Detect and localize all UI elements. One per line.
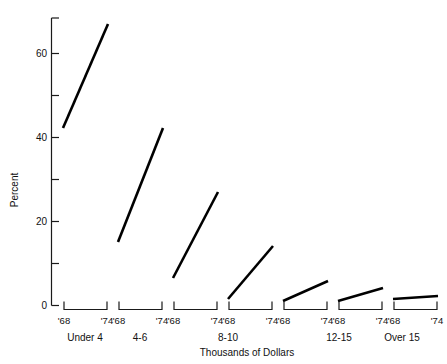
series-line-3 [173,192,218,278]
y-axis-title: Percent [9,173,20,208]
group-12-15: '68 '74 12-15 [326,288,388,343]
group-8-10: '68 '74 8-10 [218,246,278,343]
group-4-6: '68 '74 4-6 [113,128,168,343]
x-axis-title: Thousands of Dollars [200,347,295,358]
year-label-4-start: '68 [223,315,235,326]
year-label-3-start: '68 [168,315,180,326]
y-axis-tick-labels: 0 20 40 60 [36,48,48,311]
group-label-12-15: 12-15 [326,332,352,343]
group-bracket-4 [229,302,272,310]
series-line-5 [283,281,328,301]
group-5: '68 '74 [278,281,333,326]
y-tick-label-60: 60 [36,48,48,59]
series-line-8-10 [228,246,273,299]
y-axis-ticks [52,54,60,306]
group-label-8-10: 8-10 [218,332,238,343]
group-bracket-7 [394,302,437,310]
group-bracket-1 [64,302,107,310]
y-tick-label-0: 0 [41,300,47,311]
series-line-12-15 [338,288,383,301]
year-label-4-end: '74 [266,315,278,326]
year-label-7-start: '68 [388,315,400,326]
year-label-5-start: '68 [278,315,290,326]
y-tick-label-20: 20 [36,216,48,227]
group-bracket-5 [284,302,327,310]
year-label-6-start: '68 [333,315,345,326]
group-label-4-6: 4-6 [133,332,148,343]
year-label-1-end: '74 [101,315,113,326]
group-bracket-6 [339,302,382,310]
series-line-under-4 [63,24,108,128]
group-bracket-2 [119,302,162,310]
chart-svg: 0 20 40 60 Percent '68 '74 Under 4 '68 '… [0,0,447,364]
series-line-4-6 [118,128,163,242]
year-label-5-end: '74 [321,315,333,326]
group-label-over-15: Over 15 [384,332,420,343]
year-label-2-end: '74 [156,315,168,326]
year-label-3-end: '74 [211,315,223,326]
year-label-1-start: '68 [58,315,70,326]
year-label-7-end: '74 [431,315,443,326]
group-over-15: '68 '74 Over 15 [384,296,443,343]
group-under-4: '68 '74 Under 4 [58,24,113,343]
group-bracket-3 [174,302,217,310]
group-3: '68 '74 [168,192,223,326]
series-line-over-15 [393,296,438,299]
year-label-6-end: '74 [376,315,388,326]
y-tick-label-40: 40 [36,132,48,143]
year-label-2-start: '68 [113,315,125,326]
chart-container: 0 20 40 60 Percent '68 '74 Under 4 '68 '… [0,0,447,364]
group-label-under-4: Under 4 [67,332,103,343]
